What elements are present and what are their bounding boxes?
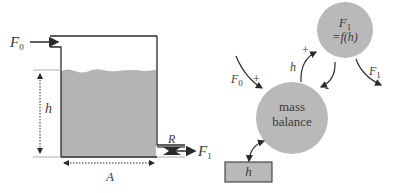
edge-state-balance: [249, 141, 264, 161]
balance-node-line2: balance: [262, 115, 322, 128]
liquid: [61, 69, 156, 156]
edge-inflow-label: F0: [231, 73, 243, 88]
area-label: A: [106, 170, 114, 183]
height-label: h: [45, 102, 52, 116]
state-box-label: h: [225, 165, 272, 178]
edge-h-sign: +: [302, 44, 309, 56]
edge-h-label: h: [290, 61, 296, 73]
tank: [33, 36, 185, 157]
edge-inflow-sign: +: [253, 73, 260, 85]
function-node-line2: =f(h): [320, 31, 370, 43]
inflow-label: F0: [10, 35, 24, 52]
outflow-label: F1: [198, 144, 212, 161]
valve-label: R: [168, 133, 175, 145]
edge-outflow-label: F1: [369, 65, 381, 80]
edge-function-sign: -: [325, 82, 329, 94]
balance-node-line1: mass: [262, 100, 322, 113]
